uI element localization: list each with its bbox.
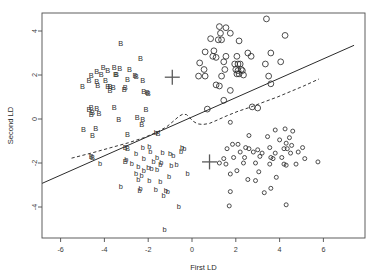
- data-point-b: b: [166, 187, 170, 196]
- y-tick-label: 2: [30, 73, 39, 77]
- data-point-B: B: [107, 86, 112, 95]
- data-point-B: B: [95, 81, 100, 90]
- data-point-b: b: [124, 155, 128, 164]
- data-point-B: B: [105, 66, 110, 75]
- data-point-b: b: [163, 225, 167, 234]
- x-tick-label: -6: [57, 245, 63, 254]
- x-tick-label: -4: [101, 245, 107, 254]
- data-point-b: b: [142, 154, 146, 163]
- data-point-B: B: [138, 54, 143, 63]
- data-point-b: b: [137, 186, 141, 195]
- data-point-b: b: [147, 176, 151, 185]
- data-point-B: B: [90, 131, 95, 140]
- data-point-b: b: [171, 151, 175, 160]
- data-point-b: b: [158, 177, 162, 186]
- data-point-B: B: [118, 39, 123, 48]
- data-point-b: b: [98, 159, 102, 168]
- data-point-B: B: [127, 65, 132, 74]
- data-point-B: B: [96, 109, 101, 118]
- plot-clip-mask-0: [0, 0, 378, 13]
- data-point-b: b: [155, 165, 159, 174]
- plot-clip-mask-3: [366, 0, 378, 279]
- data-point-b: b: [167, 172, 171, 181]
- data-point-B: B: [114, 70, 119, 79]
- data-point-B: B: [112, 103, 117, 112]
- data-point-b: b: [175, 160, 179, 169]
- data-point-B: B: [141, 87, 146, 96]
- data-point-b: b: [177, 202, 181, 211]
- data-point-B: B: [81, 125, 86, 134]
- data-point-B: B: [125, 130, 130, 139]
- data-point-B: B: [122, 85, 127, 94]
- lda-scatter-figure: BBBBBBBBBBBBBBBBBBBBBBBBBBBBBBBBBBBBBBBB…: [0, 0, 378, 279]
- data-point-b: b: [161, 191, 165, 200]
- data-point-B: B: [116, 115, 121, 124]
- x-tick-label: 2: [234, 245, 238, 254]
- data-point-b: b: [141, 143, 145, 152]
- y-tick-label: 0: [30, 117, 39, 121]
- data-point-b: b: [169, 161, 173, 170]
- x-tick-label: 0: [190, 245, 194, 254]
- data-point-B: B: [144, 105, 149, 114]
- data-point-b: b: [149, 164, 153, 173]
- data-point-b: b: [154, 185, 158, 194]
- data-point-B: B: [134, 72, 139, 81]
- x-axis-title: First LD: [190, 263, 217, 272]
- data-point-B: B: [80, 82, 85, 91]
- data-point-B: B: [87, 76, 92, 85]
- data-point-B: B: [146, 89, 151, 98]
- x-tick-label: 6: [321, 245, 325, 254]
- data-point-b: b: [119, 182, 123, 191]
- data-point-b: b: [186, 169, 190, 178]
- y-tick-label: -2: [30, 160, 39, 166]
- data-point-B: B: [140, 76, 145, 85]
- y-tick-label: -4: [30, 204, 39, 210]
- data-point-b: b: [160, 148, 164, 157]
- data-point-b: b: [179, 147, 183, 156]
- y-axis-title: Second LD: [6, 106, 15, 144]
- data-point-b: b: [134, 149, 138, 158]
- data-point-B: B: [89, 110, 94, 119]
- data-point-b: b: [136, 175, 140, 184]
- x-tick-label: -2: [145, 245, 151, 254]
- figure-background: [0, 0, 378, 279]
- y-tick-label: 4: [30, 29, 39, 33]
- plot-canvas: BBBBBBBBBBBBBBBBBBBBBBBBBBBBBBBBBBBBBBBB…: [0, 0, 378, 279]
- data-point-b: b: [130, 159, 134, 168]
- data-point-b: b: [148, 147, 152, 156]
- data-point-B: B: [139, 120, 144, 129]
- x-tick-label: 4: [278, 245, 282, 254]
